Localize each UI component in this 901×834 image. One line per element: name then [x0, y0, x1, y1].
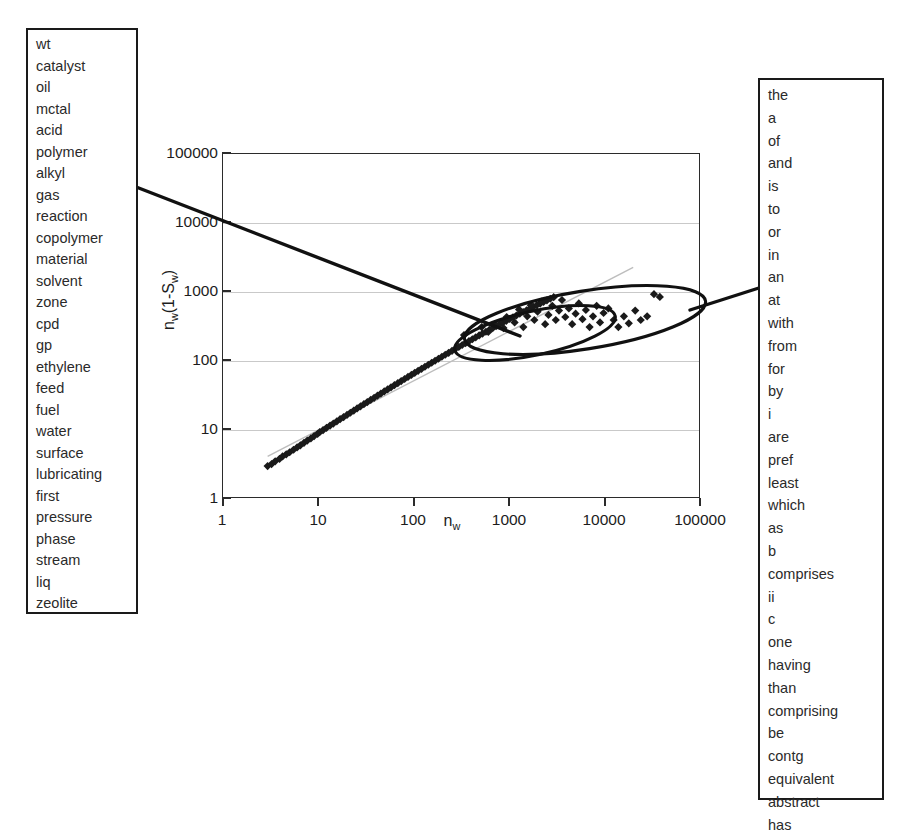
xtick-mark-1000: [508, 498, 510, 506]
xtick-mark-100000: [699, 498, 701, 506]
left-term-item: catalyst: [36, 56, 136, 78]
ytick-label-1: 1: [150, 489, 218, 507]
right-term-item: the: [768, 84, 882, 107]
right-term-item: comprises: [768, 563, 882, 586]
right-term-item: for: [768, 358, 882, 381]
right-term-item: c: [768, 608, 882, 631]
right-term-item: at: [768, 289, 882, 312]
xtick-mark-10000: [604, 498, 606, 506]
left-term-item: oil: [36, 77, 136, 99]
ytick-label-100000: 100000: [150, 144, 218, 162]
left-term-item: gp: [36, 335, 136, 357]
ytick-mark-10: [222, 428, 231, 430]
right-term-item: from: [768, 335, 882, 358]
plot-area: [222, 153, 700, 498]
left-term-item: reaction: [36, 206, 136, 228]
right-term-cluster-box: theaofandistoorinanatwithfromforbyiarepr…: [758, 78, 884, 800]
right-term-item: a: [768, 107, 882, 130]
left-term-item: solvent: [36, 271, 136, 293]
left-term-item: water: [36, 421, 136, 443]
gridline-100: [223, 361, 699, 362]
left-term-item: phase: [36, 529, 136, 551]
right-term-item: contg: [768, 745, 882, 768]
x-axis-title: nw: [444, 512, 461, 532]
right-term-item: i: [768, 403, 882, 426]
right-term-item: equivalent: [768, 768, 882, 791]
xtick-label-1000: 1000: [492, 511, 526, 529]
gridline-1000: [223, 292, 699, 293]
right-term-item: least: [768, 472, 882, 495]
right-term-item: b: [768, 540, 882, 563]
xtick-label-10: 10: [309, 511, 326, 529]
left-term-item: polymer: [36, 142, 136, 164]
xtick-mark-100: [413, 498, 415, 506]
right-term-item: having: [768, 654, 882, 677]
left-term-item: copolymer: [36, 228, 136, 250]
left-term-item: cpd: [36, 314, 136, 336]
gridline-10: [223, 430, 699, 431]
left-term-item: zeolite: [36, 593, 136, 615]
right-term-item: abstract: [768, 791, 882, 814]
left-term-item: liq: [36, 572, 136, 594]
right-term-item: an: [768, 266, 882, 289]
right-term-item: in: [768, 244, 882, 267]
left-term-item: alkyl: [36, 163, 136, 185]
xtick-mark-10: [317, 498, 319, 506]
left-term-item: fuel: [36, 400, 136, 422]
right-term-item: one: [768, 631, 882, 654]
right-term-item: or: [768, 221, 882, 244]
right-term-item: are: [768, 426, 882, 449]
ytick-label-10: 10: [150, 420, 218, 438]
xtick-label-100000: 100000: [674, 511, 726, 529]
left-term-item: wt: [36, 34, 136, 56]
xtick-label-1: 1: [218, 511, 227, 529]
left-term-item: material: [36, 249, 136, 271]
left-term-item: lubricating: [36, 464, 136, 486]
left-term-item: surface: [36, 443, 136, 465]
right-term-item: as: [768, 517, 882, 540]
left-term-cluster-box: wtcatalystoilmctalacidpolymeralkylgasrea…: [26, 28, 138, 614]
ytick-label-10000: 10000: [150, 213, 218, 231]
ytick-mark-100000: [222, 152, 231, 154]
right-term-item: be: [768, 722, 882, 745]
left-term-item: first: [36, 486, 136, 508]
ytick-mark-1000: [222, 290, 231, 292]
gridline-10000: [223, 223, 699, 224]
right-leader-line: [690, 287, 762, 310]
right-term-item: which: [768, 494, 882, 517]
right-term-item: of: [768, 130, 882, 153]
left-term-item: mctal: [36, 99, 136, 121]
xtick-mark-1: [222, 498, 224, 506]
right-term-item: is: [768, 175, 882, 198]
ytick-label-100: 100: [150, 351, 218, 369]
left-term-item: zone: [36, 292, 136, 314]
right-term-item: by: [768, 380, 882, 403]
right-term-item: comprising: [768, 700, 882, 723]
ytick-mark-100: [222, 359, 231, 361]
right-term-item: has: [768, 814, 882, 834]
right-term-item: to: [768, 198, 882, 221]
right-term-item: ii: [768, 586, 882, 609]
left-term-item: stream: [36, 550, 136, 572]
xtick-label-100: 100: [400, 511, 426, 529]
left-term-item: gas: [36, 185, 136, 207]
ytick-mark-10000: [222, 221, 231, 223]
right-term-item: than: [768, 677, 882, 700]
right-term-item: with: [768, 312, 882, 335]
y-axis-title: nw(1-Sw): [160, 270, 180, 330]
right-term-item: pref: [768, 449, 882, 472]
left-term-item: feed: [36, 378, 136, 400]
left-term-item: pressure: [36, 507, 136, 529]
xtick-label-10000: 10000: [582, 511, 625, 529]
left-term-item: ethylene: [36, 357, 136, 379]
left-term-item: acid: [36, 120, 136, 142]
right-term-item: and: [768, 152, 882, 175]
